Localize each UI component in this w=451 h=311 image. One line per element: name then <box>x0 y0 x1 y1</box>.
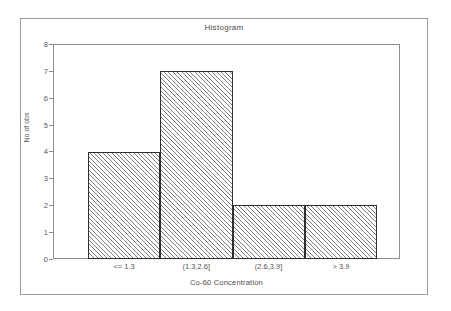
x-tick-label-3: > 3.9 <box>305 263 377 271</box>
bars-container <box>53 44 400 259</box>
x-tick-label-2: (2.6,3.9] <box>233 263 305 271</box>
bar-0 <box>88 152 160 260</box>
y-axis-title: No of obs <box>23 93 30 163</box>
histogram-screenshot: Histogram 8 7 6 5 4 3 2 1 0 No of obs <=… <box>0 0 451 311</box>
chart-title: Histogram <box>20 23 428 32</box>
x-tick-label-1: (1.3,2.6] <box>160 263 232 271</box>
bar-1 <box>160 71 232 259</box>
x-axis-title: Co-60 Concentration <box>53 278 400 287</box>
x-tick-label-0: <= 1.3 <box>88 263 160 271</box>
bar-2 <box>233 205 305 259</box>
bar-3 <box>305 205 377 259</box>
